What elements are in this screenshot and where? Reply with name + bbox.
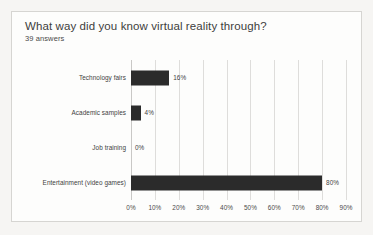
category-label: Entertainment (video games) (43, 179, 126, 187)
category-label: Technology fairs (79, 74, 126, 82)
x-tick-label: 90% (340, 204, 353, 212)
bar-row: Job training0% (131, 130, 346, 165)
bar-value-label: 4% (145, 109, 154, 117)
x-tick-label: 30% (196, 204, 209, 212)
gridline (346, 60, 347, 200)
bar-value-label: 80% (326, 179, 339, 187)
x-tick-label: 40% (220, 204, 233, 212)
plot-area: Technology fairs16%Academic samples4%Job… (131, 60, 346, 200)
bar-value-label: 16% (173, 74, 186, 82)
survey-result-card: What way did you know virtual reality th… (11, 11, 362, 222)
bar (131, 175, 322, 190)
page-title: What way did you know virtual reality th… (25, 20, 351, 33)
bar-value-label: 0% (135, 144, 144, 152)
bar-row: Entertainment (video games)80% (131, 165, 346, 200)
x-tick-label: 10% (148, 204, 161, 212)
answer-count: 39 answers (25, 34, 351, 43)
x-tick-label: 0% (126, 204, 135, 212)
x-tick-label: 50% (244, 204, 257, 212)
bar-row: Technology fairs16% (131, 60, 346, 95)
survey-chart-page: What way did you know virtual reality th… (0, 0, 373, 235)
category-label: Academic samples (72, 109, 126, 117)
x-tick-label: 20% (172, 204, 185, 212)
category-label: Job training (92, 144, 126, 152)
x-tick-label: 70% (292, 204, 305, 212)
bar (131, 70, 169, 85)
bar (131, 105, 141, 120)
bar-chart: Technology fairs16%Academic samples4%Job… (12, 56, 361, 221)
card-header: What way did you know virtual reality th… (25, 20, 351, 43)
x-tick-label: 80% (316, 204, 329, 212)
bar-row: Academic samples4% (131, 95, 346, 130)
x-tick-label: 60% (268, 204, 281, 212)
